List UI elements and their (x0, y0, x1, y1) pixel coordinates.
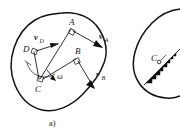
svg-text:v: v (34, 32, 38, 42)
vector-label-vd: v D (34, 32, 45, 44)
point-label-d: D (22, 44, 30, 54)
svg-text:A: A (104, 37, 109, 43)
vector-label-va: v A (99, 31, 109, 43)
figure-page: A B C D v A v B v D ω a) (0, 0, 180, 139)
rigid-body-velocity-figure: A B C D v A v B v D ω a) (0, 0, 180, 139)
point-label-a: A (68, 17, 75, 27)
center-tick-right (161, 55, 166, 60)
svg-text:v: v (99, 31, 103, 41)
angle-arc-tick (25, 61, 31, 65)
svg-text:D: D (39, 38, 45, 44)
svg-text:v: v (96, 69, 100, 79)
velocity-arrow-a-head (93, 40, 103, 48)
velocity-arrow-d-head (50, 43, 59, 48)
angular-velocity-label: ω (57, 72, 63, 81)
point-label-b: B (75, 46, 81, 56)
panel-caption-a: a) (49, 118, 56, 128)
center-marker-right (157, 60, 161, 64)
svg-text:B: B (102, 75, 106, 81)
point-label-c-right: C (151, 53, 158, 63)
point-label-c: C (35, 84, 42, 94)
line-c-to-d (34, 52, 39, 79)
body-outline-left (11, 13, 106, 111)
